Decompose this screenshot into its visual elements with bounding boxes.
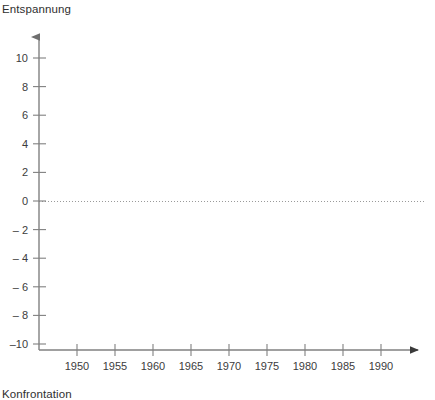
y-tick-label: 6 [0,110,28,121]
x-tick-label: 1985 [323,361,363,372]
x-tick-label: 1975 [247,361,287,372]
y-tick-label: – 2 [0,225,28,236]
x-tick-label: 1970 [209,361,249,372]
x-tick-label: 1950 [57,361,97,372]
y-axis-bottom-label: Konfrontation [2,387,72,400]
x-tick-label: 1990 [361,361,401,372]
y-tick-label: – 6 [0,282,28,293]
y-tick-label: – 4 [0,253,28,264]
x-tick-label: 1960 [133,361,173,372]
y-tick-label: 8 [0,82,28,93]
y-tick-label: 10 [0,53,28,64]
axes-graphic [0,0,435,400]
y-tick-label: –10 [0,339,28,350]
y-tick-label: 2 [0,167,28,178]
x-tick-label: 1980 [285,361,325,372]
y-tick-label: – 8 [0,310,28,321]
plot-area: 10 8 6 4 2 0 – 2 – 4 – 6 – 8 –10 1950 19… [0,0,435,400]
y-tick-label: 4 [0,139,28,150]
x-tick-label: 1965 [171,361,211,372]
x-tick-label: 1955 [95,361,135,372]
chart-container: Entspannung [0,0,435,400]
y-tick-label: 0 [0,196,28,207]
